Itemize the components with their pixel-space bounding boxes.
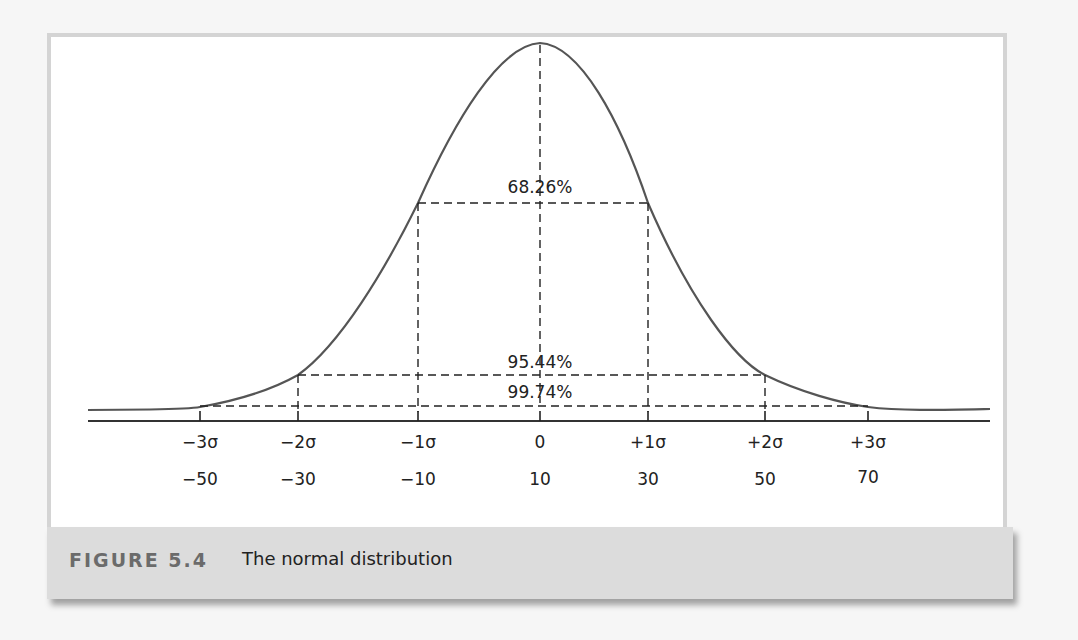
value-label: 30	[637, 469, 659, 489]
value-label: −50	[182, 469, 218, 489]
sigma-label: −3σ	[182, 432, 218, 452]
sigma-label: −2σ	[280, 432, 316, 452]
value-label: −10	[400, 469, 436, 489]
value-label: 10	[529, 469, 551, 489]
value-label: 50	[754, 469, 776, 489]
label-95: 95.44%	[508, 352, 573, 372]
axis-ticks	[200, 411, 868, 421]
sigma-label: +1σ	[630, 432, 666, 452]
label-68: 68.26%	[508, 177, 573, 197]
value-label: −30	[280, 469, 316, 489]
sigma-label: 0	[535, 432, 546, 452]
figure-caption-bar: FIGURE 5.4 The normal distribution	[47, 527, 1013, 599]
sigma-labels: −3σ −2σ −1σ 0 +1σ +2σ +3σ	[182, 432, 886, 452]
sigma-label: +2σ	[747, 432, 783, 452]
value-label: 70	[857, 467, 879, 487]
sigma-label: +3σ	[850, 432, 886, 452]
figure-title: The normal distribution	[242, 548, 453, 569]
figure-number: FIGURE 5.4	[69, 549, 208, 571]
label-99: 99.74%	[508, 382, 573, 402]
value-labels: −50 −30 −10 10 30 50 70	[182, 467, 879, 489]
sigma-label: −1σ	[400, 432, 436, 452]
